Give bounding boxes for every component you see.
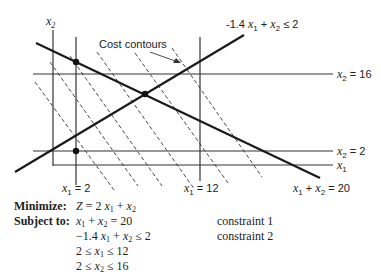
vertex-point [73, 148, 79, 154]
x1-eq-2-label: x1 = 2 [61, 181, 90, 197]
vertex-point [73, 59, 79, 65]
x2-axis-label: x2 [45, 14, 55, 30]
subject-to-label: Subject to: [14, 214, 76, 229]
cost-contour-line [70, 56, 162, 186]
cost-contours-label: Cost contours [99, 38, 167, 50]
objective-row: Minimize: Z = 2 x1 + x2 [14, 199, 273, 214]
x1-eq-12-label: x1 = 12 [183, 181, 219, 197]
constraint-row: 2 ≤ x1 ≤ 12 [14, 244, 273, 259]
constraint-expression: 2 ≤ x1 ≤ 12 [76, 244, 217, 259]
x2-eq-16-label: x2 = 16 [336, 67, 372, 83]
constraint-row: 2 ≤ x2 ≤ 16 [14, 259, 273, 274]
constraint-1-label: x1 + x2 = 20 [292, 181, 350, 197]
constraint-note: constraint 1 [217, 214, 273, 229]
constraint-row: −1.4 x1 + x2 ≤ 2 constraint 2 [14, 229, 273, 244]
x1-axis-label: x1 [336, 158, 347, 174]
lp-problem-statement: Minimize: Z = 2 x1 + x2 Subject to: x1 +… [14, 199, 273, 274]
constraint-row: Subject to: x1 + x2 = 20 constraint 1 [14, 214, 273, 229]
constraint-expression: x1 + x2 = 20 [76, 214, 217, 229]
cost-contour-line [172, 48, 262, 177]
lp-feasible-region-diagram: x2 Cost contours -1.4 x1 + x2 ≤ 2 x2 = 1… [0, 0, 381, 200]
constraint-expression: 2 ≤ x2 ≤ 16 [76, 259, 217, 274]
constraint-expression: −1.4 x1 + x2 ≤ 2 [76, 229, 217, 244]
cost-contours [35, 48, 262, 190]
cost-contours-arrow [150, 52, 178, 62]
constraint-2-label: -1.4 x1 + x2 ≤ 2 [226, 17, 298, 33]
vertex-points [73, 59, 148, 154]
minimize-label: Minimize: [14, 199, 76, 214]
constraint-note: constraint 2 [217, 229, 273, 244]
objective-expression: Z = 2 x1 + x2 [76, 199, 217, 214]
vertex-point [142, 91, 148, 97]
